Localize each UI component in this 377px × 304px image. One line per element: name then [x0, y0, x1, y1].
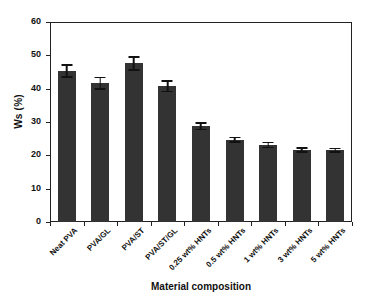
bar [125, 63, 143, 222]
y-axis-tick-label: 10 [31, 183, 41, 193]
error-bar [330, 148, 341, 153]
error-bar-cap-top [229, 137, 240, 139]
y-axis-tick-label: 0 [36, 216, 41, 226]
y-axis-tick-label: 30 [31, 116, 41, 126]
bar [58, 71, 76, 222]
error-bar-cap-bottom [195, 129, 206, 131]
error-bar-cap-bottom [128, 69, 139, 71]
error-bar-cap-top [195, 122, 206, 124]
bar-chart-figure: Ws (%) 0102030405060 Neat PVAPVA/GLPVA/S… [0, 0, 377, 304]
error-bar-cap-bottom [61, 76, 72, 78]
error-bar [296, 147, 307, 152]
bar-group [184, 22, 218, 222]
y-axis-title-text: Ws (%) [13, 94, 24, 129]
error-bar [229, 137, 240, 143]
bar-group [84, 22, 118, 222]
bar-group [50, 22, 84, 222]
bar [158, 86, 176, 222]
bar [91, 83, 109, 222]
y-axis-tick-label: 40 [31, 83, 41, 93]
error-bar-cap-top [162, 80, 173, 82]
x-axis-tick-label-text: 3 wt% HNTs [276, 226, 314, 264]
bar-group [285, 22, 319, 222]
y-axis-tick-label: 20 [31, 149, 41, 159]
y-axis-tick-label: 50 [31, 49, 41, 59]
error-bar [128, 56, 139, 71]
error-bar-cap-top [330, 148, 341, 150]
error-bar-cap-top [128, 56, 139, 58]
error-bar-cap-bottom [330, 151, 341, 153]
error-bar-cap-bottom [162, 91, 173, 93]
error-bar-cap-bottom [263, 147, 274, 149]
bar-group [117, 22, 151, 222]
x-axis-tick-label-text: Neat PVA [48, 226, 79, 257]
y-axis-tick-label: 60 [31, 16, 41, 26]
error-bar [263, 142, 274, 149]
x-axis-title: Material composition [50, 281, 352, 292]
x-axis-tick-label-text: PVA/GL [86, 226, 113, 253]
error-bar-cap-top [263, 142, 274, 144]
bar-group [151, 22, 185, 222]
error-bar [95, 77, 106, 90]
error-bar-cap-top [61, 64, 72, 66]
error-bar [162, 80, 173, 92]
x-axis-tick-label-text: 5 wt% HNTs [309, 226, 347, 264]
error-bar-cap-bottom [296, 151, 307, 153]
error-bar [195, 122, 206, 130]
error-bar-cap-top [95, 77, 106, 79]
error-bar-cap-bottom [95, 88, 106, 90]
x-axis-tick-label-text: PVA/ST [120, 226, 146, 252]
x-axis-tick-label-text: PVA/ST/GL [144, 226, 180, 262]
y-axis-title: Ws (%) [8, 0, 28, 222]
error-bar [61, 64, 72, 78]
error-bar-cap-bottom [229, 141, 240, 143]
bar-group [318, 22, 352, 222]
error-bar-cap-top [296, 147, 307, 149]
x-axis-tick-mark [50, 222, 51, 226]
